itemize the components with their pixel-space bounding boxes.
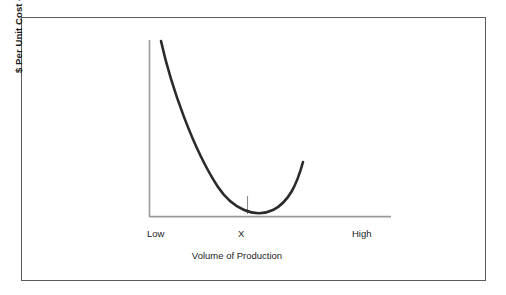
y-axis-title: $ Per Unit Cost of Production	[12, 0, 26, 73]
x-tick-label-x: X	[238, 228, 244, 240]
cost-curve-plot	[22, 18, 487, 282]
figure-frame: $ Per Unit Cost of Production Low X High…	[21, 17, 486, 281]
x-axis-title: Volume of Production	[142, 250, 332, 262]
plot-area: $ Per Unit Cost of Production Low X High…	[22, 18, 487, 282]
unit-cost-curve	[161, 41, 303, 213]
x-tick-label-low: Low	[147, 228, 164, 240]
x-tick-label-high: High	[352, 228, 372, 240]
